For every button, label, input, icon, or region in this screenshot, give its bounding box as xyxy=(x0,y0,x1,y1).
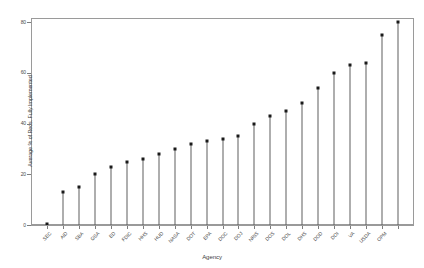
x-axis-tick-label: DOT xyxy=(181,231,196,246)
data-point xyxy=(157,152,160,155)
stem-line xyxy=(286,111,287,225)
x-axis-tick xyxy=(270,226,271,229)
x-axis-tick-label: HUD xyxy=(149,231,164,246)
x-axis-tick-label: VA xyxy=(341,231,356,246)
x-axis-tick xyxy=(318,226,319,229)
data-point xyxy=(333,71,336,74)
x-axis-tick-label: NRIS xyxy=(245,231,260,246)
x-axis-tick-label: FDIC xyxy=(117,231,132,246)
stem-line xyxy=(142,159,143,225)
x-axis-tick xyxy=(159,226,160,229)
stem-line xyxy=(190,144,191,225)
x-axis-tick xyxy=(63,226,64,229)
x-axis-tick-label xyxy=(389,231,400,242)
x-axis-tick-label: ED xyxy=(101,231,116,246)
x-axis-tick-label: AID xyxy=(54,231,69,246)
stem-line xyxy=(174,149,175,225)
stem-line xyxy=(382,35,383,225)
x-axis-tick-label: GSA xyxy=(86,231,101,246)
data-point xyxy=(285,109,288,112)
stem-line xyxy=(270,116,271,225)
x-axis-tick-label: DOJ xyxy=(229,231,244,246)
data-point xyxy=(61,191,64,194)
x-axis-tick xyxy=(191,226,192,229)
data-point xyxy=(301,102,304,105)
data-point xyxy=(173,147,176,150)
x-axis-tick xyxy=(254,226,255,229)
x-axis-tick-label: EPA xyxy=(197,231,212,246)
data-point xyxy=(93,173,96,176)
data-point xyxy=(205,140,208,143)
stem-line xyxy=(302,103,303,225)
stem-line xyxy=(350,65,351,225)
stem-line xyxy=(334,73,335,225)
x-axis-tick-label: DOL xyxy=(277,231,292,246)
x-axis-tick xyxy=(143,226,144,229)
y-axis-tick xyxy=(27,174,31,175)
y-axis-tick xyxy=(27,124,31,125)
data-point xyxy=(349,64,352,67)
stem-line xyxy=(126,162,127,225)
x-axis-tick xyxy=(238,226,239,229)
data-point xyxy=(77,185,80,188)
data-point xyxy=(269,114,272,117)
data-point xyxy=(365,61,368,64)
x-axis-tick xyxy=(79,226,80,229)
x-axis-tick xyxy=(398,226,399,229)
x-axis-tick-label: OPM xyxy=(373,231,388,246)
y-axis-tick xyxy=(27,22,31,23)
stem-line xyxy=(318,88,319,225)
x-axis-tick-label: SEC xyxy=(38,231,53,246)
x-axis-tick xyxy=(207,226,208,229)
x-axis-title: Agency xyxy=(0,254,424,260)
data-point xyxy=(141,158,144,161)
x-axis-tick xyxy=(350,226,351,229)
stem-line xyxy=(78,187,79,225)
stem-line xyxy=(206,141,207,225)
y-axis-tick-label: 0 xyxy=(6,223,26,228)
y-axis-tick xyxy=(27,73,31,74)
y-axis-tick-label: 40 xyxy=(6,121,26,126)
data-point xyxy=(253,122,256,125)
stem-line xyxy=(254,124,255,226)
x-axis-tick-label: NASA xyxy=(165,231,180,246)
data-point xyxy=(397,21,400,24)
x-axis-tick xyxy=(302,226,303,229)
data-point xyxy=(109,165,112,168)
y-axis-title: Average % of Recs. Fully Implemented xyxy=(27,41,33,201)
x-axis-tick-label: HHS xyxy=(133,231,148,246)
plot-drawing-area xyxy=(31,18,414,225)
stem-line xyxy=(158,154,159,225)
y-axis-tick-label: 80 xyxy=(6,20,26,25)
data-point xyxy=(221,137,224,140)
stem-line xyxy=(398,22,399,225)
data-point xyxy=(125,160,128,163)
y-axis-tick xyxy=(27,225,31,226)
x-axis-tick-label: DOI xyxy=(325,231,340,246)
x-axis-tick-label: SBA xyxy=(70,231,85,246)
x-axis-tick xyxy=(175,226,176,229)
stem-line xyxy=(94,174,95,225)
x-axis-tick xyxy=(366,226,367,229)
x-axis-tick xyxy=(95,226,96,229)
stem-line xyxy=(62,192,63,225)
stem-line xyxy=(222,139,223,225)
x-axis-tick xyxy=(286,226,287,229)
x-axis-tick xyxy=(382,226,383,229)
x-axis-tick-label: DOC xyxy=(213,231,228,246)
x-axis-tick xyxy=(47,226,48,229)
x-axis-tick xyxy=(111,226,112,229)
x-axis-tick-label: DOS xyxy=(261,231,276,246)
x-axis-tick xyxy=(334,226,335,229)
stem-line xyxy=(366,63,367,225)
stem-plot-figure: Average % of Recs. Fully Implemented Age… xyxy=(0,0,424,268)
chart-screenshot: Average % of Recs. Fully Implemented Age… xyxy=(0,0,424,268)
data-point xyxy=(237,135,240,138)
x-axis-tick-label: DHS xyxy=(293,231,308,246)
x-axis-tick-label: DOD xyxy=(309,231,324,246)
data-point xyxy=(317,86,320,89)
x-axis-tick xyxy=(127,226,128,229)
data-point xyxy=(381,33,384,36)
x-axis-tick-label: USDA xyxy=(357,231,372,246)
y-axis-tick-label: 60 xyxy=(6,70,26,75)
